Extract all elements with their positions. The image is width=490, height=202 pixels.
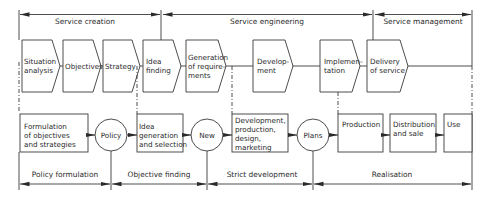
- phase-label-service-engineering: Service engineering: [230, 17, 304, 26]
- service-development-process-diagram: Service creation Service engineering Ser…: [0, 0, 490, 202]
- phase-label-policy-formulation: Policy formulation: [32, 170, 98, 179]
- step-label-strategy: Strategy: [105, 62, 136, 71]
- step-label-generation-requirements: Generation of require- ments: [188, 53, 228, 80]
- step-label-delivery-of-service: Delivery of service: [370, 57, 405, 75]
- node-label-new: New: [199, 131, 215, 140]
- node-label-policy: Policy: [101, 131, 122, 140]
- step-label-production: Production: [342, 120, 380, 129]
- step-label-situation-analysis: Situation analysis: [24, 57, 56, 75]
- step-label-development-production: Development, production, design, marketi…: [235, 116, 286, 152]
- step-label-implementation: Implemen- tation: [324, 57, 363, 75]
- step-label-use: Use: [447, 120, 460, 129]
- phase-label-strict-development: Strict development: [227, 170, 298, 179]
- step-label-formulation: Formulation of objectives and strategies: [24, 122, 76, 149]
- step-label-distribution: Distribution and sale: [393, 120, 435, 138]
- phase-label-service-creation: Service creation: [55, 17, 115, 26]
- step-label-objectives: Objectives: [65, 62, 103, 71]
- step-label-idea-generation: Idea generation and selection: [139, 122, 187, 149]
- phase-label-realisation: Realisation: [372, 170, 413, 179]
- node-label-plans: Plans: [303, 131, 322, 140]
- phase-label-objective-finding: Objective finding: [128, 170, 191, 179]
- phase-label-service-management: Service management: [383, 17, 462, 26]
- step-label-development: Develop- ment: [257, 57, 289, 75]
- step-label-idea-finding: Idea finding: [146, 57, 171, 75]
